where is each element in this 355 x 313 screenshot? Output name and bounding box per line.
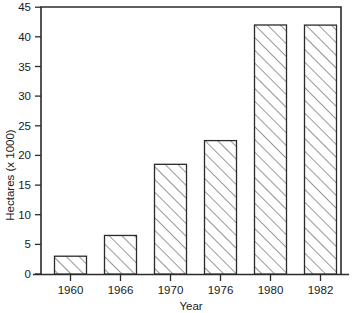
x-tick-label-1980: 1980	[258, 284, 284, 296]
x-tick-label-1976: 1976	[208, 284, 234, 296]
bar-1980	[255, 25, 287, 274]
x-tick-label-1960: 1960	[58, 284, 84, 296]
y-tick-label: 45	[18, 1, 31, 13]
chart-canvas: 0 5 10 15 20 25 30 35 40 45 Hectares (x …	[0, 0, 355, 313]
x-axis-title: Year	[179, 300, 202, 312]
bar-chart-figure: 0 5 10 15 20 25 30 35 40 45 Hectares (x …	[0, 0, 355, 313]
bar-1966	[105, 235, 137, 274]
y-tick-label: 10	[18, 209, 31, 221]
bar-1976	[205, 141, 237, 274]
bar-1982	[305, 25, 337, 274]
x-tick-label-1982: 1982	[308, 284, 334, 296]
y-tick-label: 25	[18, 120, 31, 132]
y-axis-title: Hectares (x 1000)	[4, 129, 16, 221]
bar-1960	[55, 256, 87, 274]
y-tick-label: 30	[18, 90, 31, 102]
y-tick-label: 15	[18, 179, 31, 191]
y-tick-label: 35	[18, 61, 31, 73]
y-tick-label: 5	[25, 238, 31, 250]
y-tick-label: 0	[25, 268, 31, 280]
y-tick-label: 20	[18, 149, 31, 161]
x-tick-label-1966: 1966	[108, 284, 134, 296]
x-tick-label-1970: 1970	[158, 284, 184, 296]
bar-1970	[155, 164, 187, 274]
y-tick-label: 40	[18, 31, 31, 43]
